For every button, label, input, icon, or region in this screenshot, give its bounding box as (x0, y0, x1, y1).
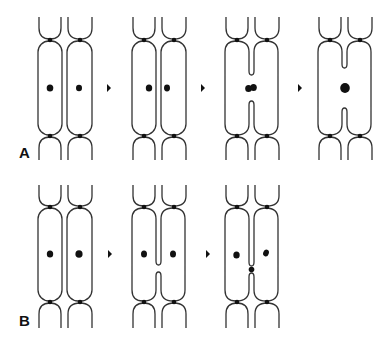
fusion-pore-dot (249, 267, 255, 273)
panel-label-a: A (19, 144, 30, 161)
row-a (38, 17, 372, 160)
stage-a3 (225, 17, 279, 160)
cell-fusion-diagram: A B (0, 0, 390, 340)
stage-b2 (132, 185, 186, 328)
stage-b3 (225, 185, 279, 328)
arrow-icon (108, 250, 112, 258)
arrow-icon (206, 250, 210, 258)
arrow-icon (107, 84, 111, 92)
panel-label-b: B (19, 312, 30, 329)
arrow-icon (298, 84, 302, 92)
stage-a4 (318, 17, 372, 160)
row-b (38, 185, 279, 328)
stage-a1 (38, 17, 92, 160)
stage-a2 (132, 17, 186, 160)
arrow-icon (201, 84, 205, 92)
stage-b1 (38, 185, 92, 328)
